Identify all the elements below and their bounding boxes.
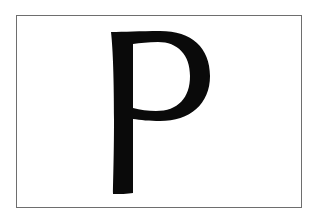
letter-p-glyph <box>0 0 318 220</box>
